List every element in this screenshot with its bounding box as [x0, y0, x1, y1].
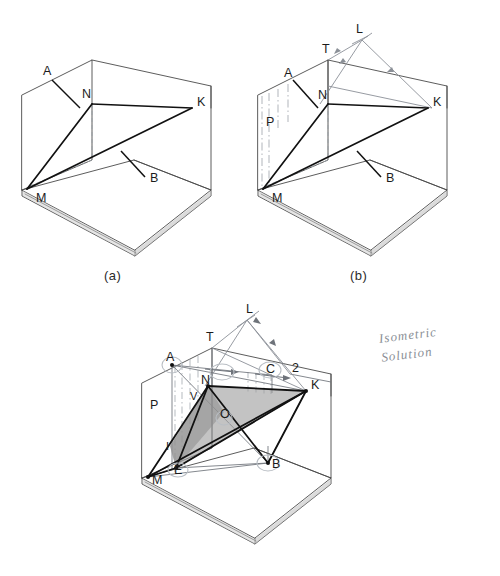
floor-top-c [142, 448, 331, 538]
label-e-fig-c: E [174, 463, 182, 477]
drawing-sheet: A N K M B (a) [0, 0, 500, 576]
label-l-fig-c: L [246, 302, 253, 316]
label-2-fig-c: 2 [292, 361, 299, 375]
handwritten-note: Isometric Solution [378, 323, 440, 367]
figure-c: L T A C 2 N K P V O I E M B [0, 0, 500, 576]
label-o-fig-c: O [220, 407, 230, 421]
label-c-fig-c: C [266, 362, 275, 376]
label-i-fig-c: I [166, 440, 169, 452]
label-p-fig-c: P [150, 398, 158, 412]
floor-stripe-c [143, 479, 331, 544]
label-b-fig-c: B [272, 457, 280, 471]
label-n-fig-c: N [201, 373, 210, 387]
label-k-fig-c: K [311, 378, 320, 392]
label-v-fig-c: V [190, 390, 198, 402]
label-a-fig-c: A [166, 350, 175, 364]
label-t-fig-c: T [206, 330, 214, 344]
light-rays-c [205, 311, 306, 391]
label-m-fig-c: M [152, 473, 162, 487]
